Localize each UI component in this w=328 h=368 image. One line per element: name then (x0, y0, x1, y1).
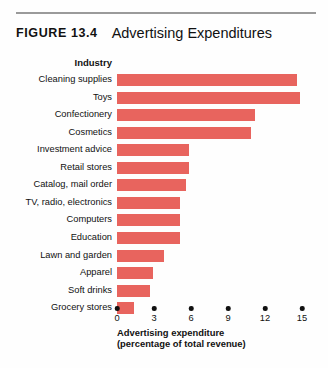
bar-row: Lawn and garden (0, 249, 328, 267)
figure-card: FIGURE 13.4 Advertising Expenditures Ind… (0, 0, 328, 368)
x-axis-tick-label: 15 (287, 313, 317, 323)
bar-row: Cosmetics (0, 126, 328, 144)
figure-title: Advertising Expenditures (112, 25, 272, 41)
bar (117, 179, 186, 191)
bar (117, 127, 251, 139)
x-axis: Advertising expenditure (percentage of t… (0, 306, 328, 368)
bar-row: Soft drinks (0, 284, 328, 302)
bar-category-label: Retail stores (0, 161, 112, 174)
x-axis-tick-marker (115, 306, 120, 311)
x-axis-tick-marker (300, 306, 305, 311)
bar-category-label: TV, radio, electronics (0, 196, 112, 209)
figure-number: FIGURE 13.4 (16, 26, 98, 40)
bar-category-label: Computers (0, 213, 112, 226)
bar-row: Computers (0, 213, 328, 231)
bar (117, 162, 189, 174)
bar (117, 109, 255, 121)
bar-row: Retail stores (0, 161, 328, 179)
bar (117, 285, 150, 297)
bar (117, 74, 297, 86)
bar-row: Cleaning supplies (0, 73, 328, 91)
bar-row: Apparel (0, 266, 328, 284)
bar-category-label: Catalog, mail order (0, 178, 112, 191)
x-axis-tick-marker (152, 306, 157, 311)
x-axis-tick-marker (189, 306, 194, 311)
bar (117, 214, 180, 226)
header-divider (16, 12, 316, 14)
bar-category-label: Education (0, 231, 112, 244)
bar-category-label: Investment advice (0, 143, 112, 156)
bar-row: Toys (0, 91, 328, 109)
bar-chart: Industry Cleaning suppliesToysConfection… (0, 52, 328, 368)
bar-category-label: Confectionery (0, 108, 112, 121)
bar-row: Investment advice (0, 143, 328, 161)
bar (117, 197, 180, 209)
x-axis-tick-label: 9 (213, 313, 243, 323)
bar-category-label: Cosmetics (0, 126, 112, 139)
figure-header: FIGURE 13.4 Advertising Expenditures (16, 20, 316, 46)
x-axis-tick-marker (226, 306, 231, 311)
bar-row: Confectionery (0, 108, 328, 126)
y-axis-title: Industry (0, 57, 112, 68)
bar-row: Education (0, 231, 328, 249)
bar-row: Catalog, mail order (0, 178, 328, 196)
bar (117, 250, 164, 262)
x-axis-tick-label: 3 (139, 313, 169, 323)
bar-category-label: Soft drinks (0, 284, 112, 297)
bar (117, 267, 153, 279)
bar-category-label: Apparel (0, 266, 112, 279)
x-axis-tick-label: 12 (250, 313, 280, 323)
x-axis-label-line1: Advertising expenditure (117, 327, 317, 339)
x-axis-tick-label: 6 (176, 313, 206, 323)
x-axis-tick-marker (263, 306, 268, 311)
bar-category-label: Lawn and garden (0, 249, 112, 262)
bar-row: TV, radio, electronics (0, 196, 328, 214)
bar (117, 92, 300, 104)
x-axis-tick-label: 0 (102, 313, 132, 323)
bar (117, 144, 189, 156)
bar-category-label: Cleaning supplies (0, 73, 112, 86)
bar (117, 232, 180, 244)
bar-category-label: Toys (0, 91, 112, 104)
x-axis-label-line2: (percentage of total revenue) (117, 338, 327, 350)
plot-area: Cleaning suppliesToysConfectioneryCosmet… (0, 73, 328, 305)
